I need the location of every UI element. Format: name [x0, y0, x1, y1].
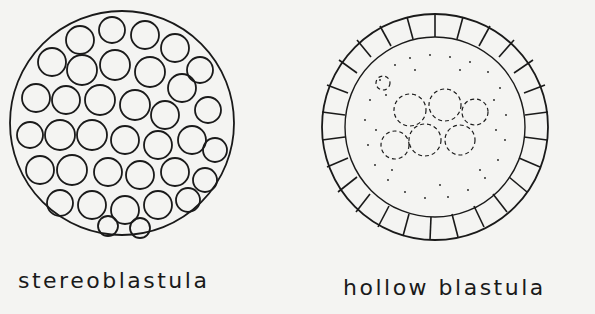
blastocoel-stipple [364, 54, 507, 199]
stereoblastula-cells [17, 17, 227, 238]
figure-canvas [0, 0, 595, 314]
hollow-blastula-label: hollow blastula [343, 275, 546, 300]
inner-dashed-cells [376, 76, 488, 159]
hollow-blastula-diagram [322, 14, 548, 240]
stereoblastula-diagram [10, 11, 234, 238]
stereoblastula-label: stereoblastula [18, 268, 209, 293]
